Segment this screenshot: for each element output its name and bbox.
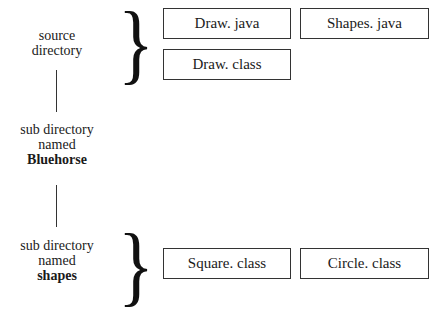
node-source-directory: source directory xyxy=(2,28,112,58)
node-line: directory xyxy=(2,43,112,58)
node-name: Bluehorse xyxy=(27,152,87,167)
connector-line xyxy=(56,185,57,227)
connector-line xyxy=(56,70,57,112)
node-line: sub directory xyxy=(2,238,112,253)
file-draw-class: Draw. class xyxy=(163,49,291,80)
node-bluehorse: sub directory named Bluehorse xyxy=(2,122,112,167)
node-shapes: sub directory named shapes xyxy=(2,238,112,283)
node-line: source xyxy=(2,28,112,43)
brace-icon: } xyxy=(118,222,154,310)
file-draw-java: Draw. java xyxy=(163,8,291,39)
node-line: sub directory xyxy=(2,122,112,137)
file-square-class: Square. class xyxy=(163,248,291,279)
file-shapes-java: Shapes. java xyxy=(300,8,429,39)
node-line: named xyxy=(2,137,112,152)
node-line: named xyxy=(2,253,112,268)
node-name: shapes xyxy=(37,268,77,283)
file-circle-class: Circle. class xyxy=(300,248,429,279)
brace-icon: } xyxy=(118,0,154,88)
